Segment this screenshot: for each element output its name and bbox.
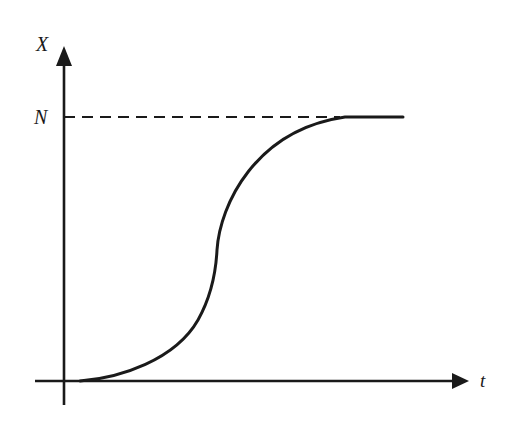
asymptote-label: N [34, 107, 47, 127]
y-axis-label: X [36, 34, 48, 54]
x-axis-arrow-icon [452, 373, 469, 389]
x-axis-label: t [480, 371, 485, 390]
logistic-curve [80, 117, 403, 381]
y-axis-arrow-icon [56, 46, 72, 66]
logistic-growth-diagram [0, 0, 516, 429]
